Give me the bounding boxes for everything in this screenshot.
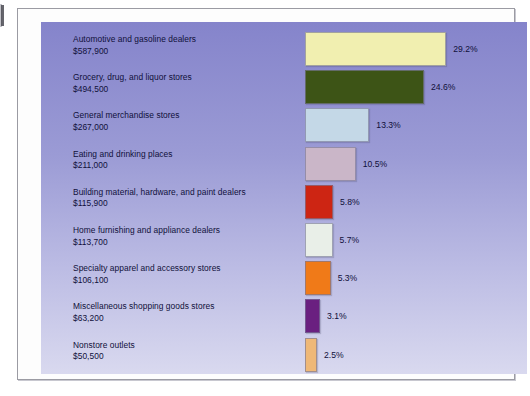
bar-label-group: Eating and drinking places$211,000 (73, 149, 323, 172)
bar-amount-label: $115,900 (73, 198, 323, 210)
bar-value-label: 13.3% (376, 120, 400, 130)
scan-edge-artifact (1, 5, 4, 26)
bar-category-label: Building material, hardware, and paint d… (73, 187, 323, 199)
bar (305, 108, 369, 142)
bar (305, 32, 446, 66)
chart-row: Grocery, drug, and liquor stores$494,500… (41, 70, 527, 108)
bar-value-label: 5.7% (340, 235, 360, 245)
bar-category-label: Specialty apparel and accessory stores (73, 263, 323, 275)
bar (305, 147, 356, 181)
bar-amount-label: $50,500 (73, 351, 323, 363)
bar-amount-label: $113,700 (73, 237, 323, 249)
bar-value-label: 5.8% (340, 197, 360, 207)
bar-amount-label: $587,900 (73, 46, 323, 58)
bar-label-group: Miscellaneous shopping goods stores$63,2… (73, 301, 323, 324)
bar-value-label: 2.5% (324, 350, 344, 360)
bar-category-label: Nonstore outlets (73, 340, 323, 352)
bar (305, 223, 333, 257)
bar-value-label: 24.6% (431, 82, 455, 92)
chart-row: Automotive and gasoline dealers$587,9002… (41, 32, 527, 70)
bar-amount-label: $106,100 (73, 275, 323, 287)
chart-row: Miscellaneous shopping goods stores$63,2… (41, 299, 527, 337)
bar-value-label: 29.2% (453, 44, 477, 54)
bar-amount-label: $211,000 (73, 160, 323, 172)
bar-value-label: 10.5% (363, 159, 387, 169)
bar-label-group: Home furnishing and appliance dealers$11… (73, 225, 323, 248)
bar (305, 299, 320, 333)
chart-row: Nonstore outlets$50,5002.5% (41, 338, 527, 376)
bar-label-group: Specialty apparel and accessory stores$1… (73, 263, 323, 286)
bar-value-label: 5.3% (338, 273, 358, 283)
chart-row: Home furnishing and appliance dealers$11… (41, 223, 527, 261)
bar-label-group: Grocery, drug, and liquor stores$494,500 (73, 72, 323, 95)
bar-amount-label: $494,500 (73, 84, 323, 96)
bar-value-label: 3.1% (327, 311, 347, 321)
bar (305, 261, 331, 295)
bar (305, 185, 333, 219)
bar (305, 70, 424, 104)
chart-row: General merchandise stores$267,00013.3% (41, 108, 527, 146)
bar-label-group: Building material, hardware, and paint d… (73, 187, 323, 210)
chart-figure: Automotive and gasoline dealers$587,9002… (0, 0, 530, 396)
bar-category-label: Home furnishing and appliance dealers (73, 225, 323, 237)
chart-row: Building material, hardware, and paint d… (41, 185, 527, 223)
bar-label-group: Nonstore outlets$50,500 (73, 340, 323, 363)
bar (305, 338, 317, 372)
bar-amount-label: $63,200 (73, 313, 323, 325)
bar-category-label: Miscellaneous shopping goods stores (73, 301, 323, 313)
bar-category-label: Eating and drinking places (73, 149, 323, 161)
bar-category-label: Grocery, drug, and liquor stores (73, 72, 323, 84)
bar-label-group: Automotive and gasoline dealers$587,900 (73, 34, 323, 57)
bar-chart-plot-area: Automotive and gasoline dealers$587,9002… (41, 22, 527, 374)
chart-row: Specialty apparel and accessory stores$1… (41, 261, 527, 299)
figure-card: Automotive and gasoline dealers$587,9002… (17, 8, 515, 380)
bar-category-label: General merchandise stores (73, 110, 323, 122)
bar-label-group: General merchandise stores$267,000 (73, 110, 323, 133)
chart-row: Eating and drinking places$211,00010.5% (41, 147, 527, 185)
bar-category-label: Automotive and gasoline dealers (73, 34, 323, 46)
bar-amount-label: $267,000 (73, 122, 323, 134)
